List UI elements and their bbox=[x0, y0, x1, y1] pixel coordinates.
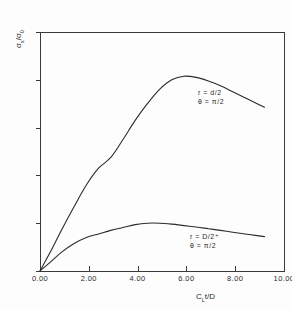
x-tick-label: 10.00 bbox=[267, 274, 292, 283]
chart-figure: σx/σ0 CLt/D 0.002.004.006.008.0010.00 0.… bbox=[0, 0, 292, 310]
x-tick-label: 4.00 bbox=[121, 274, 155, 283]
x-axis-title: CLt/D bbox=[196, 292, 215, 303]
x-tick-label: 2.00 bbox=[72, 274, 106, 283]
annotation-upper-line2: θ = π/2 bbox=[198, 97, 224, 106]
annotation-lower-line1: r = D/2⁺ bbox=[190, 232, 219, 241]
annotation-lower-line2: θ = π/2 bbox=[190, 241, 219, 250]
y-axis-title-text: σx/σ0 bbox=[14, 30, 23, 48]
annotation-lower-curve: r = D/2⁺ θ = π/2 bbox=[190, 232, 219, 250]
data-curve-lower bbox=[40, 223, 264, 271]
curve-layer bbox=[40, 32, 285, 272]
x-tick-label: 0.00 bbox=[23, 274, 57, 283]
data-curve-upper bbox=[40, 76, 264, 271]
annotation-upper-curve: r = d/2 θ = π/2 bbox=[198, 88, 224, 106]
x-tick-label: 6.00 bbox=[169, 274, 203, 283]
x-axis-title-text: CLt/D bbox=[196, 292, 215, 301]
annotation-upper-line1: r = d/2 bbox=[198, 88, 224, 97]
plot-area: 0.002.004.006.008.0010.00 0.002.004.006.… bbox=[40, 32, 285, 272]
x-tick-label: 8.00 bbox=[218, 274, 252, 283]
y-axis-title: σx/σ0 bbox=[14, 30, 25, 48]
